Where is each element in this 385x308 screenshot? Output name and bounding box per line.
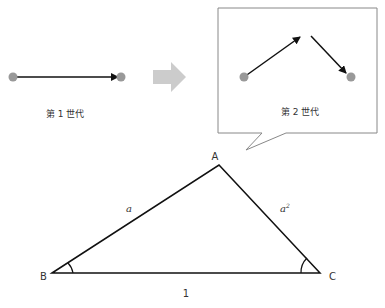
gen1-end-dot: [117, 73, 126, 82]
gen2-end-dot: [347, 73, 356, 82]
gen1-start-dot: [9, 73, 18, 82]
gen2-label: 第 2 世代: [281, 106, 319, 117]
side-bc-label: 1: [183, 288, 189, 299]
gen1-label: 第 1 世代: [46, 108, 84, 119]
vertex-b-label: B: [40, 271, 47, 282]
triangle-figure: A B C a a2 1: [40, 151, 336, 299]
vertex-c-label: C: [329, 271, 336, 282]
generation-2-callout: 第 2 世代: [218, 8, 377, 150]
gen2-start-dot: [240, 73, 249, 82]
angle-b-arc: [68, 263, 73, 273]
transition-arrow-icon: [153, 62, 186, 92]
side-ab-label: a: [126, 203, 132, 214]
angle-c-arc: [301, 258, 307, 273]
diagram-canvas: 第 1 世代 第 2 世代 A B C a a2 1: [0, 0, 385, 308]
generation-1-figure: 第 1 世代: [9, 73, 126, 120]
vertex-a-label: A: [212, 151, 219, 162]
side-ac-label: a2: [280, 202, 290, 214]
